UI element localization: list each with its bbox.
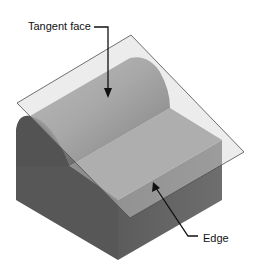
tangent-face-label: Tangent face [28, 20, 91, 32]
edge-label: Edge [203, 232, 229, 244]
diagram-canvas: Tangent face Edge [0, 0, 259, 276]
